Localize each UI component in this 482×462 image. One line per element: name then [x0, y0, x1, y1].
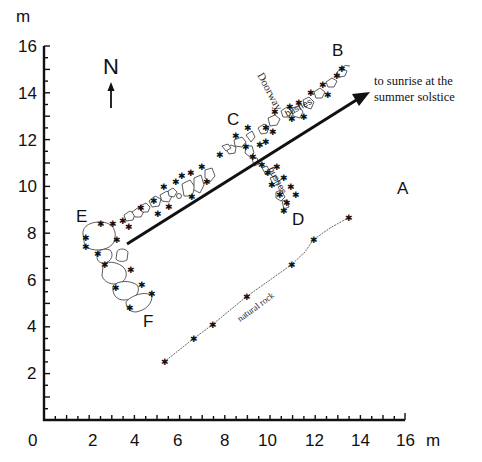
x-tick-label: 12: [305, 431, 324, 450]
north-label: N: [103, 54, 119, 79]
svg-text:✱: ✱: [137, 203, 145, 213]
svg-text:✱: ✱: [165, 202, 173, 212]
x-tick-label: 14: [351, 431, 370, 450]
svg-text:✱: ✱: [112, 283, 120, 293]
svg-text:✱: ✱: [190, 334, 198, 344]
svg-text:✱: ✱: [232, 131, 240, 141]
site-plan-diagram: m 16 14 12 10 8 6 4 2 0 2 4 6 8 10 12 14…: [0, 0, 482, 462]
svg-text:✱: ✱: [178, 171, 186, 181]
svg-text:✱: ✱: [161, 357, 169, 367]
point-label-e: E: [76, 207, 87, 226]
point-label-f: F: [143, 312, 153, 331]
point-label-c: C: [227, 110, 239, 129]
x-unit-label: m: [426, 431, 440, 450]
y-tick-label: 14: [18, 84, 37, 103]
svg-text:✱: ✱: [242, 142, 250, 152]
svg-text:✱: ✱: [187, 168, 195, 178]
svg-text:✱: ✱: [148, 289, 156, 299]
svg-text:✱: ✱: [300, 112, 308, 122]
svg-text:✱: ✱: [101, 260, 109, 270]
svg-text:✱: ✱: [109, 219, 117, 229]
svg-text:✱: ✱: [160, 182, 168, 192]
stone-wall-west: ✱ ✱ ✱ ✱ ✱ ✱ ✱ ✱ ✱ ✱ ✱ ✱ ✱ ✱: [119, 145, 236, 232]
x-tick-label: 16: [396, 431, 415, 450]
stone-wall-east: ✱ ✱ ✱ ✱ ✱ ✱ ✱ bushes: [283, 64, 350, 122]
svg-text:✱: ✱: [154, 209, 162, 219]
y-tick-label: 16: [18, 37, 37, 56]
sunrise-label-line1: to sunrise at the: [374, 74, 453, 88]
north-indicator: N: [103, 54, 119, 108]
point-label-b: B: [332, 41, 343, 60]
svg-text:✱: ✱: [94, 249, 102, 259]
svg-text:✱: ✱: [310, 235, 318, 245]
svg-text:✱: ✱: [292, 190, 300, 200]
svg-text:✱: ✱: [113, 235, 121, 245]
svg-text:✱: ✱: [243, 292, 251, 302]
y-tick-label: 2: [27, 364, 36, 383]
svg-text:✱: ✱: [150, 196, 158, 206]
arrowhead-icon: [352, 92, 370, 106]
point-label-a: A: [397, 179, 409, 198]
svg-text:✱: ✱: [269, 127, 277, 137]
svg-text:✱: ✱: [198, 162, 206, 172]
x-tick-label: 2: [88, 431, 97, 450]
svg-text:✱: ✱: [262, 137, 270, 147]
svg-text:✱: ✱: [288, 260, 296, 270]
x-tick-label: 8: [220, 431, 229, 450]
svg-text:✱: ✱: [324, 90, 332, 100]
natural-rock-label: natural rock: [235, 290, 276, 324]
svg-text:✱: ✱: [138, 280, 146, 290]
svg-text:✱: ✱: [319, 80, 327, 90]
y-unit-label: m: [16, 7, 30, 26]
north-arrow-icon: [108, 82, 115, 108]
x-tick-label: 4: [130, 431, 139, 450]
sunrise-label-line2: summer solstice: [374, 90, 455, 104]
svg-text:✱: ✱: [126, 303, 134, 313]
svg-text:✱: ✱: [244, 123, 252, 133]
x-tick-label: 10: [258, 431, 277, 450]
svg-text:✱: ✱: [97, 219, 105, 229]
y-tick-label: 4: [27, 317, 36, 336]
passage-to-d: ✱ ✱ ✱ ✱ ✱ ✱ ✱ ✱ ✱ ✱ bushes: [258, 160, 300, 216]
svg-text:✱: ✱: [209, 320, 217, 330]
svg-text:✱: ✱: [216, 150, 224, 160]
x-tick-label: 6: [173, 431, 182, 450]
svg-text:✱: ✱: [203, 177, 211, 187]
svg-text:✱: ✱: [338, 64, 346, 74]
svg-text:✱: ✱: [125, 222, 133, 232]
svg-text:✱: ✱: [82, 242, 90, 252]
y-tick-label: 8: [27, 224, 36, 243]
y-tick-label: 10: [18, 177, 37, 196]
svg-text:✱: ✱: [280, 206, 288, 216]
y-tick-label: 6: [27, 271, 36, 290]
natural-rock-outcrop: ✱ ✱ ✱ ✱ ✱ ✱ ✱ natural rock: [161, 213, 353, 367]
y-tick-label: 12: [18, 131, 37, 150]
x-tick-label: 0: [28, 431, 37, 450]
svg-text:✱: ✱: [249, 152, 257, 162]
svg-text:✱: ✱: [345, 213, 353, 223]
svg-text:✱: ✱: [127, 265, 135, 275]
point-label-d: D: [292, 210, 304, 229]
